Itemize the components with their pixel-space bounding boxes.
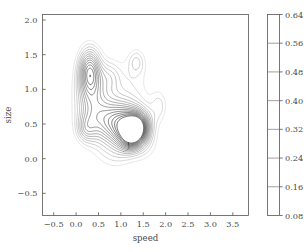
x-tick-label: 1.5 [137,219,150,229]
plot-canvas: −0.50.00.51.01.52.02.53.03.5 −0.50.00.51… [0,0,308,252]
x-tick-label: 1.0 [114,219,127,229]
x-tick-label: 3.5 [226,219,239,229]
colorbar-tick-label: 0.16 [285,182,303,192]
contour-line [129,53,143,78]
y-tick-label: 0.5 [24,119,37,129]
colorbar-ticks [268,15,283,216]
x-tick-label: 2.5 [182,219,195,229]
colorbar: 0.080.160.240.320.400.480.560.64 [268,10,304,221]
plot-frame [43,15,249,216]
colorbar-tick-label: 0.24 [285,153,303,163]
colorbar-tick-label: 0.56 [285,38,303,48]
y-axis-label: size [3,107,13,124]
contour-line [82,58,149,149]
x-tick-label: 3.0 [204,219,217,229]
y-tick-label: 2.0 [24,15,37,25]
y-tick-label: −0.5 [18,188,38,198]
colorbar-tick-label: 0.40 [285,96,303,106]
x-tick-label: 0.5 [92,219,105,229]
x-axis-label: speed [133,233,159,243]
y-tick-label: 1.5 [24,50,37,60]
colorbar-tick-label: 0.32 [285,124,303,134]
y-axis-tick-labels: −0.50.00.51.01.52.0 [18,15,38,198]
colorbar-tick-label: 0.48 [285,67,303,77]
contour-lines [72,40,166,165]
colorbar-tick-label: 0.64 [285,10,303,20]
x-tick-label: −0.5 [44,219,64,229]
contour-line [90,75,91,77]
contour-line [132,57,140,69]
colorbar-tick-labels: 0.080.160.240.320.400.480.560.64 [285,10,303,221]
contour-figure: −0.50.00.51.01.52.02.53.03.5 −0.50.00.51… [0,0,308,252]
y-tick-label: 0.0 [24,154,37,164]
y-axis-ticks [43,20,46,193]
colorbar-tick-label: 0.08 [285,211,303,221]
contour-line [117,116,144,143]
x-tick-label: 0.0 [70,219,83,229]
contour-line [84,62,97,95]
x-axis-tick-labels: −0.50.00.51.01.52.02.53.03.5 [44,219,240,229]
x-axis-ticks [54,212,233,215]
colorbar-frame [268,15,280,216]
y-tick-label: 1.0 [24,84,37,94]
x-tick-label: 2.0 [159,219,172,229]
